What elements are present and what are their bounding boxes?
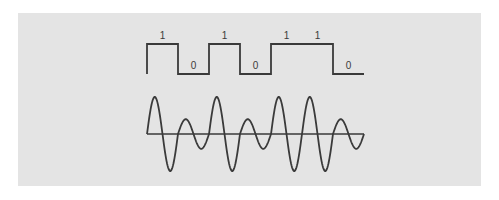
bit-label-5: 1	[315, 30, 321, 41]
bit-label-3: 0	[253, 60, 259, 71]
bit-labels: 1010110	[160, 30, 352, 71]
bit-label-0: 1	[160, 30, 166, 41]
bit-label-2: 1	[222, 30, 228, 41]
bit-label-1: 0	[191, 60, 197, 71]
ask-diagram: 1010110	[0, 0, 499, 200]
bit-label-4: 1	[284, 30, 290, 41]
bit-label-6: 0	[346, 60, 352, 71]
